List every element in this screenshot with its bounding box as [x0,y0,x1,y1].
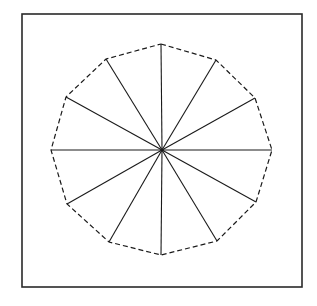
spoke-line [161,150,162,255]
spoke-line [162,150,217,241]
spoke-line [162,98,255,150]
dodecagon-diagram [0,0,317,306]
spoke-line [67,150,162,204]
spoke-line [162,60,216,150]
spoke-line [109,150,162,242]
center-point [160,148,163,151]
spoke-line [106,59,162,150]
spoke-line [66,97,162,150]
spoke-line [162,150,256,202]
spoke-line [161,44,162,150]
